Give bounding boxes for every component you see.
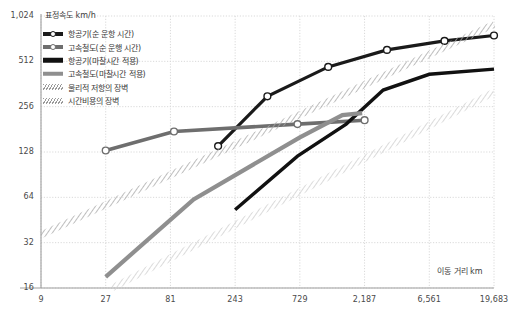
y-axis-tick-label: 64 <box>0 192 34 201</box>
hatched-line-icon <box>43 98 63 104</box>
x-axis-tick-label: 243 <box>205 295 265 304</box>
legend-swatch-icon <box>43 42 63 53</box>
legend-swatch-icon <box>43 28 63 39</box>
series-marker-1 <box>102 147 109 154</box>
series-marker-1 <box>361 117 368 124</box>
series-marker-1 <box>171 128 178 135</box>
legend-item[interactable]: 고속철도(순 운행 시간) <box>43 40 146 53</box>
y-axis-tick-label: 1,024 <box>0 11 34 20</box>
x-axis-tick-label: 6,561 <box>399 295 459 304</box>
series-marker-0 <box>264 93 271 100</box>
x-axis-tick-label: 2,187 <box>335 295 395 304</box>
legend-swatch-icon <box>43 55 63 66</box>
line-icon <box>43 58 63 63</box>
series-marker-0 <box>325 64 332 71</box>
x-axis-tick-label: 81 <box>140 295 200 304</box>
y-axis-tick-label: 512 <box>0 56 34 65</box>
series-marker-0 <box>491 32 498 39</box>
y-axis-tick-label: 256 <box>0 102 34 111</box>
x-axis-tick-label: 19,683 <box>464 295 513 304</box>
legend-item-label: 고속철도(순 운행 시간) <box>68 42 141 53</box>
hatched-line-icon <box>43 84 63 90</box>
y-axis-tick-label: 32 <box>0 238 34 247</box>
legend-item-label: 시간비용의 장벽 <box>68 95 119 106</box>
x-axis-title: 이동 거리 km <box>437 265 483 276</box>
circle-marker-icon <box>50 31 56 37</box>
series-marker-1 <box>294 121 301 128</box>
y-axis-title: 표정속도 km/h <box>45 9 96 20</box>
legend-swatch-icon <box>43 82 63 93</box>
legend-item-label: 항공기(순 운항 시간) <box>68 28 134 39</box>
series-marker-0 <box>384 47 391 54</box>
chart-legend: 항공기(순 운항 시간)고속철도(순 운행 시간)항공기(마찰시간 적용)고속철… <box>43 27 146 107</box>
x-axis-tick-label: 9 <box>11 295 71 304</box>
legend-item[interactable]: 항공기(순 운항 시간) <box>43 27 146 40</box>
legend-item-label: 고속철도(마찰시간 적용) <box>68 68 146 79</box>
x-axis-tick-label: 27 <box>76 295 136 304</box>
legend-item[interactable]: 시간비용의 장벽 <box>43 94 146 107</box>
legend-item[interactable]: 항공기(마찰시간 적용) <box>43 54 146 67</box>
line-icon <box>43 72 63 77</box>
legend-swatch-icon <box>43 68 63 79</box>
legend-item-label: 항공기(마찰시간 적용) <box>68 55 139 66</box>
legend-swatch-icon <box>43 95 63 106</box>
circle-marker-icon <box>50 44 56 50</box>
y-axis-tick-label: 128 <box>0 147 34 156</box>
y-axis-tick-label: 16 <box>0 283 34 292</box>
legend-item[interactable]: 물리적 저항의 장벽 <box>43 81 146 94</box>
legend-item[interactable]: 고속철도(마찰시간 적용) <box>43 67 146 80</box>
x-axis-tick-label: 729 <box>270 295 330 304</box>
legend-item-label: 물리적 저항의 장벽 <box>68 82 128 93</box>
series-band-5 <box>110 89 495 291</box>
